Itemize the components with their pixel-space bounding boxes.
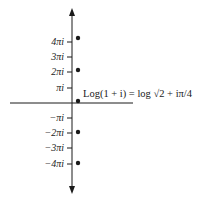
tick-label-neg-3pi: −3πi [18,143,64,153]
point-2pi [76,68,80,72]
arrow-down-icon [69,186,75,194]
point-4pi [76,36,80,40]
tick-label-neg-2pi: −2πi [18,128,64,138]
log-branch-points [76,36,80,165]
tick-label-pi: πi [18,83,64,93]
complex-plane-diagram [0,0,199,201]
tick-label-4pi: 4πi [18,37,64,47]
tick-label-neg-pi: −πi [18,113,64,123]
point-neg2pi [76,130,80,134]
tick-label-neg-4pi: −4πi [18,159,64,169]
point-principal [76,99,80,103]
point-neg4pi [76,161,80,165]
arrow-up-icon [69,8,75,16]
principal-log-annotation: Log(1 + i) = log √2 + iπ/4 [83,88,192,100]
tick-label-2pi: 2πi [18,67,64,77]
tick-label-3pi: 3πi [18,52,64,62]
